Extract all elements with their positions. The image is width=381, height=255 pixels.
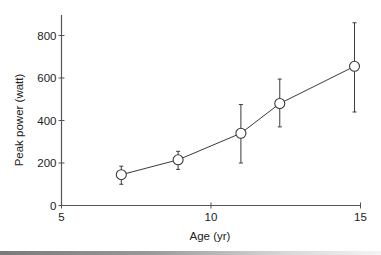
y-tick-label: 200	[37, 157, 56, 169]
data-series	[116, 23, 359, 185]
y-tick-label: 0	[50, 200, 56, 212]
bottom-divider	[0, 251, 381, 255]
y-tick-label: 400	[37, 115, 56, 127]
x-axis-title: Age (yr)	[190, 230, 231, 242]
x-tick-label: 5	[58, 211, 64, 223]
data-point-marker	[275, 99, 285, 109]
data-point-marker	[116, 170, 126, 180]
data-point-marker	[350, 61, 360, 71]
y-tick-label: 600	[37, 72, 56, 84]
data-point-marker	[173, 155, 183, 165]
data-point-marker	[236, 128, 246, 138]
y-tick-label: 800	[37, 30, 56, 42]
axes: 020040060080051015	[37, 15, 367, 223]
series-line	[121, 66, 354, 174]
y-axis-title: Peak power (watt)	[13, 73, 25, 166]
peak-power-chart: 020040060080051015 Age (yr) Peak power (…	[0, 0, 381, 255]
x-tick-label: 10	[205, 211, 218, 223]
x-tick-label: 15	[354, 211, 367, 223]
